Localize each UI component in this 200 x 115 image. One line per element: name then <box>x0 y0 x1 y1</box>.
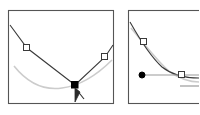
right-panel-frame <box>129 11 200 104</box>
figure-canvas <box>0 0 199 115</box>
right-panel-filled-dot[interactable] <box>139 72 145 78</box>
left-panel-frame <box>9 11 114 104</box>
left-panel-closed-square-mid[interactable] <box>72 82 79 89</box>
two-panel-plot-figure <box>0 0 199 115</box>
left-panel-open-square-right[interactable] <box>102 54 108 60</box>
right-panel-open-square-upper[interactable] <box>141 39 147 45</box>
left-panel-open-square-left[interactable] <box>24 45 30 51</box>
right-panel[interactable] <box>129 11 200 104</box>
right-panel-open-square-lower[interactable] <box>179 72 185 78</box>
left-panel[interactable] <box>9 11 114 104</box>
